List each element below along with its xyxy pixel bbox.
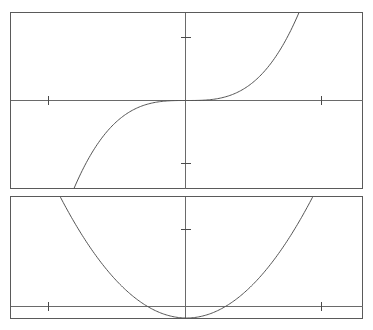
figure-background xyxy=(0,0,373,330)
dual-panel-graph-figure xyxy=(0,0,373,330)
figure-container xyxy=(0,0,373,330)
